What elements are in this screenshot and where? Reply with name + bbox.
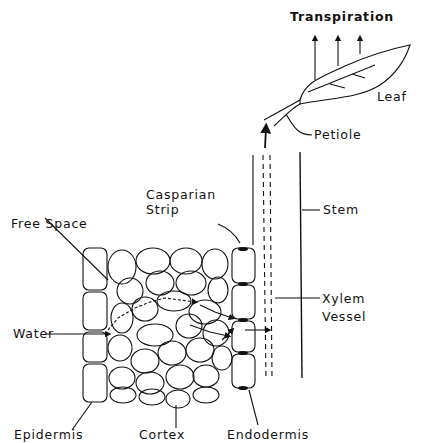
label-epidermis: Epidermis [14, 428, 83, 442]
label-free-space: Free Space [11, 217, 88, 231]
xylem-line-1 [263, 155, 266, 380]
label-xylem-1: Xylem [322, 292, 365, 306]
stem-wall-right [300, 152, 302, 378]
label-endodermis: Endodermis [227, 428, 309, 442]
diagram-canvas: Transpiration Leaf Petiole Casparian Str… [0, 0, 423, 443]
endodermis-cells [232, 248, 255, 388]
label-water: Water [13, 327, 54, 341]
epidermis-pointer [72, 402, 92, 430]
label-petiole: Petiole [314, 128, 362, 142]
label-transpiration: Transpiration [290, 10, 394, 24]
endodermis-pointer [249, 390, 258, 425]
epidermis-cells [83, 248, 107, 402]
label-leaf: Leaf [377, 90, 407, 104]
label-casparian-1: Casparian [146, 188, 216, 202]
leaf-shape [264, 45, 410, 126]
label-xylem-2: Vessel [322, 310, 366, 324]
petiole-pointer [286, 114, 312, 135]
label-cortex: Cortex [139, 428, 185, 442]
label-casparian-2: Strip [146, 203, 179, 217]
label-stem: Stem [323, 203, 359, 217]
cortex-cells [108, 248, 232, 408]
casparian-pointer [218, 224, 240, 243]
xylem-line-2 [270, 155, 272, 380]
